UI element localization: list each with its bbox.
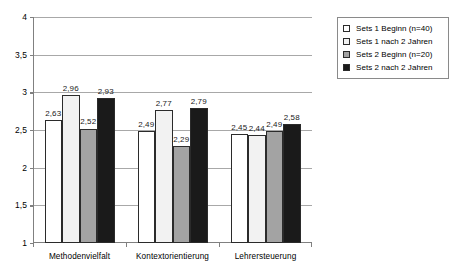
legend-item-label: Sets 2 Beginn (n=20) <box>356 50 432 59</box>
bar <box>138 131 156 243</box>
y-axis-tick-label: 1 <box>22 238 27 248</box>
bar <box>80 129 98 244</box>
y-axis-tick-label: 3,5 <box>15 50 27 60</box>
bar-value-label: 2,77 <box>149 99 179 108</box>
x-axis: MethodenvielfaltKontextorientierungLehre… <box>33 243 312 270</box>
bar <box>45 120 63 243</box>
bar <box>283 124 301 243</box>
legend-swatch-icon <box>343 38 350 45</box>
bar-chart: 11,522,533,54 2,632,962,522,932,492,772,… <box>0 0 455 270</box>
y-axis-labels: 11,522,533,54 <box>0 17 27 243</box>
bars-layer: 2,632,962,522,932,492,772,292,792,452,44… <box>33 17 312 243</box>
bar <box>97 98 115 243</box>
y-axis-tick-label: 2 <box>22 163 27 173</box>
bar <box>248 135 266 243</box>
legend-item[interactable]: Sets 2 Beginn (n=20) <box>343 48 443 61</box>
y-axis-tick-label: 1,5 <box>15 200 27 210</box>
x-axis-tick <box>311 243 312 247</box>
legend-swatch-icon <box>343 25 350 32</box>
bar <box>231 134 249 243</box>
bar-value-label: 2,58 <box>277 113 307 122</box>
x-axis-category-label: Methodenvielfalt <box>49 252 110 261</box>
legend-swatch-icon <box>343 64 350 71</box>
bar-value-label: 2,96 <box>56 84 86 93</box>
legend-swatch-icon <box>343 51 350 58</box>
legend-item[interactable]: Sets 1 nach 2 Jahren <box>343 35 443 48</box>
legend-item-label: Sets 1 Beginn (n=40) <box>356 24 432 33</box>
x-axis-category-label: Kontextorientierung <box>136 252 209 261</box>
legend-item[interactable]: Sets 2 nach 2 Jahren <box>343 61 443 74</box>
plot-wrapper: 11,522,533,54 2,632,962,522,932,492,772,… <box>0 0 320 270</box>
legend-item[interactable]: Sets 1 Beginn (n=40) <box>343 22 443 35</box>
bar <box>173 146 191 243</box>
bar <box>155 110 173 243</box>
y-axis-tick-label: 4 <box>22 12 27 22</box>
legend-item-label: Sets 2 nach 2 Jahren <box>356 63 433 72</box>
bar-value-label: 2,79 <box>184 97 214 106</box>
legend-item-label: Sets 1 nach 2 Jahren <box>356 37 433 46</box>
x-axis-tick <box>33 243 34 247</box>
bar-value-label: 2,93 <box>91 87 121 96</box>
y-axis-tick-label: 3 <box>22 87 27 97</box>
x-axis-tick <box>126 243 127 247</box>
x-axis-tick <box>219 243 220 247</box>
y-axis-tick-label: 2,5 <box>15 125 27 135</box>
bar <box>190 108 208 243</box>
bar <box>266 131 284 243</box>
x-axis-category-label: Lehrersteuerung <box>235 252 297 261</box>
chart-legend: Sets 1 Beginn (n=40)Sets 1 nach 2 Jahren… <box>337 17 449 79</box>
